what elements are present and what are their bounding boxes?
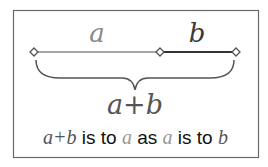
- caption-text: is to: [77, 127, 122, 148]
- caption-sum: a+b: [43, 126, 77, 148]
- label-a: a: [89, 18, 105, 48]
- caption-text: is to: [173, 127, 218, 148]
- label-b: b: [189, 18, 206, 48]
- label-sum: a+b: [107, 89, 163, 120]
- caption-b: b: [218, 126, 228, 148]
- caption: a+b is to a as a is to b: [13, 126, 258, 149]
- caption-text: as: [132, 127, 163, 148]
- caption-a: a: [122, 126, 132, 148]
- caption-a: a: [163, 126, 173, 148]
